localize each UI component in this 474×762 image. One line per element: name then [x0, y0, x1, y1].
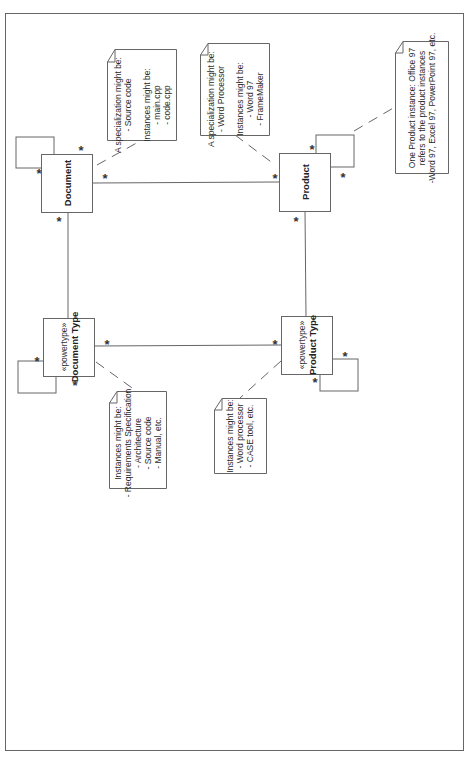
note-line: One Product instance: Office 97	[407, 48, 417, 168]
class-document: Document	[54, 154, 80, 212]
note-product-text: A specialization might be: - Word Proces…	[205, 54, 265, 144]
note-line: A specialization might be:	[206, 51, 216, 147]
mult-documenttype-self-a: *	[32, 357, 42, 367]
note-line: Instances might be:	[142, 68, 152, 142]
note-line: Instances might be:	[235, 62, 245, 136]
note-line: - Word 97	[245, 80, 255, 117]
mult-document-self-a: *	[34, 169, 44, 179]
note-line: - CASE tool, etc.	[245, 405, 255, 468]
note-line: - Source code	[123, 79, 133, 132]
anchor-document-type-note	[96, 362, 135, 390]
note-product-type-text: Instances might be: - Word processor - C…	[224, 403, 256, 469]
class-document-type-name: Document Type	[69, 312, 80, 383]
note-line: - main.cpp	[152, 85, 162, 125]
note-line: A specialization might be:	[113, 57, 123, 153]
note-product-instance-text: One Product instance: Office 97 refers t…	[406, 44, 438, 172]
note-line: - Manual, etc.	[153, 417, 163, 469]
class-product-type-stereotype: «powertype»	[297, 321, 307, 370]
mult-producttype-self-b: *	[310, 378, 320, 388]
mult-product-producttype-a: *	[291, 217, 301, 227]
mult-document-self-b: *	[76, 146, 86, 156]
anchor-product-type-note	[240, 361, 281, 398]
note-document-text: A specialization might be: - Source code…	[112, 60, 172, 150]
mult-documenttype-producttype-a: *	[102, 340, 112, 350]
class-document-type-stereotype: «powertype»	[59, 323, 69, 372]
mult-producttype-self-a: *	[340, 352, 350, 362]
class-product: Product	[292, 153, 318, 211]
assoc-documenttype-producttype	[94, 345, 281, 346]
note-line: - FrameMaker	[255, 72, 265, 125]
note-line: - Word processor	[235, 403, 245, 468]
note-line: - Source code	[143, 417, 153, 470]
class-product-name: Product	[300, 164, 311, 200]
class-product-type-name: Product Type	[307, 315, 318, 375]
mult-product-self-b: *	[338, 173, 348, 183]
note-document-type-text: Instances might be: - Requirements Speci…	[112, 396, 164, 490]
mult-product-self-a: *	[307, 145, 317, 155]
note-line: -Word 97, Excel 97, PowerPoint 97, etc.	[427, 33, 437, 184]
mult-document-product-a: *	[100, 174, 110, 184]
class-document-name: Document	[62, 160, 73, 206]
mult-document-product-b: *	[270, 174, 280, 184]
anchor-product-instance-note	[354, 107, 395, 131]
mult-documenttype-self-b: *	[70, 381, 80, 391]
class-product-type: «powertype» Product Type	[292, 306, 322, 384]
note-line: - code.cpp	[162, 85, 172, 125]
note-line: - Word Processor	[216, 66, 226, 132]
note-line: refers to the product instances	[417, 51, 427, 165]
assoc-product-producttype	[305, 211, 306, 316]
note-line: Instances might be:	[113, 406, 123, 480]
class-document-type: «powertype» Document Type	[54, 308, 84, 386]
assoc-document-product	[93, 182, 279, 183]
mult-documenttype-producttype-b: *	[270, 340, 280, 350]
note-line: Instances might be:	[225, 399, 235, 473]
mult-document-documenttype-a: *	[54, 217, 64, 227]
note-line: - Requirements Specification	[123, 389, 133, 498]
note-line: - Architecture	[133, 418, 143, 468]
